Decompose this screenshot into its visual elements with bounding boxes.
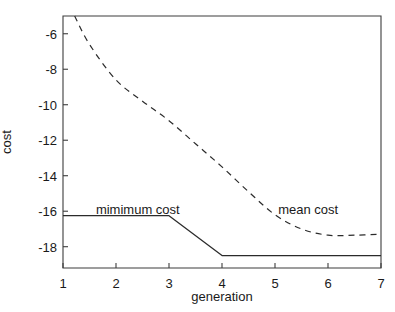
x-tick-label: 3 xyxy=(165,277,172,290)
y-axis-title: cost xyxy=(0,130,13,154)
x-tick-label: 5 xyxy=(271,277,278,290)
x-tick-label: 7 xyxy=(377,277,384,290)
x-axis-tick-labels: 1234567 xyxy=(0,0,395,312)
x-tick-label: 6 xyxy=(324,277,331,290)
x-tick-label: 1 xyxy=(59,277,66,290)
x-tick-label: 2 xyxy=(112,277,119,290)
x-axis-title: generation xyxy=(191,290,252,303)
chart-figure: mimimum cost mean cost -6-8-10-12-14-16-… xyxy=(0,0,395,312)
